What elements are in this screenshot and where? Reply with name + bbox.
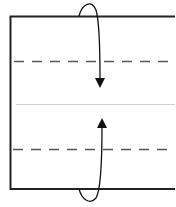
top-arrowhead-icon [95, 78, 105, 88]
top-fold-arrow [79, 4, 100, 78]
origami-diagram [0, 0, 175, 207]
paper-outline [11, 17, 176, 190]
bottom-arrowhead-icon [97, 118, 107, 128]
bottom-fold-arrow [79, 127, 102, 201]
